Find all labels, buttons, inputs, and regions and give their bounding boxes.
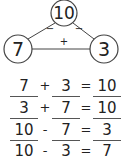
equation-row: 3 + 7 = 10 [0,98,127,120]
plus-label-bottom: + [59,36,69,48]
equals-sign: = [80,141,92,160]
operand-b: 3 [52,76,80,97]
part-right-value: 3 [90,38,118,60]
whole-value: 10 [50,3,78,23]
equation-row: 7 + 3 = 10 [0,76,127,98]
operand-b: 3 [52,141,80,160]
minus-label-left: − [45,23,55,35]
result: 10 [93,98,121,119]
equals-sign: = [80,98,92,118]
result: 10 [93,76,121,97]
operator: - [39,141,51,160]
minus-label-right: − [74,23,84,35]
operand-a: 10 [10,120,38,141]
result: 3 [93,120,121,141]
operand-a: 3 [10,98,38,119]
operator: + [39,76,51,96]
operand-b: 7 [52,98,80,119]
operand-a: 10 [10,141,38,160]
equation-row: 10 - 3 = 7 [0,141,127,160]
part-left-value: 7 [4,38,32,60]
equals-sign: = [80,76,92,96]
result: 7 [93,141,121,160]
operator: + [39,98,51,118]
equals-sign: = [80,120,92,140]
operator: - [39,120,51,140]
operand-b: 7 [52,120,80,141]
equation-row: 10 - 7 = 3 [0,120,127,142]
operand-a: 7 [10,76,38,97]
